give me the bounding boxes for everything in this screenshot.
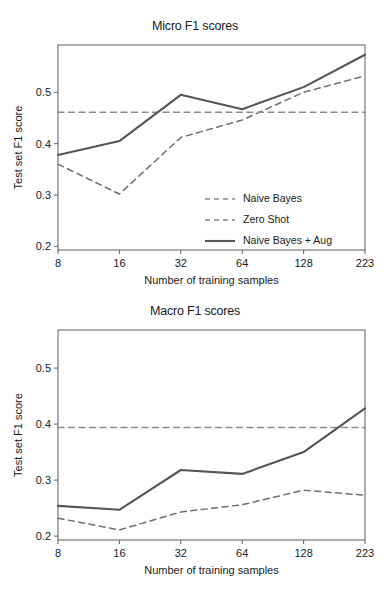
plot-area-macro: 0.20.30.40.58163264128223Number of train…: [0, 290, 390, 598]
x-tick-label: 16: [113, 547, 125, 559]
legend-label: Naive Bayes: [243, 192, 302, 204]
x-tick-label: 8: [55, 257, 61, 269]
x-tick-label: 128: [294, 547, 312, 559]
y-tick-label: 0.4: [36, 418, 51, 430]
x-tick-label: 8: [55, 547, 61, 559]
legend-label: Naive Bayes + Aug: [243, 234, 332, 246]
x-tick-label: 223: [356, 547, 374, 559]
y-tick-label: 0.4: [36, 138, 51, 150]
x-tick-label: 64: [236, 547, 248, 559]
series-line-naive-bayes: [58, 76, 365, 194]
x-axis-title: Number of training samples: [144, 564, 279, 576]
y-tick-label: 0.5: [36, 86, 51, 98]
y-tick-label: 0.3: [36, 189, 51, 201]
x-tick-label: 223: [356, 257, 374, 269]
y-axis-title: Test set F1 score: [12, 393, 24, 477]
series-line-naive-bayes: [58, 490, 365, 530]
y-tick-label: 0.2: [36, 530, 51, 542]
y-tick-label: 0.2: [36, 240, 51, 252]
legend-label: Zero Shot: [243, 213, 289, 225]
y-axis-title: Test set F1 score: [12, 106, 24, 190]
x-tick-label: 32: [175, 547, 187, 559]
series-line-naive-bayes-aug: [58, 55, 365, 155]
chart-panel-micro: Micro F1 scores 0.20.30.40.5816326412822…: [0, 0, 390, 298]
x-axis-title: Number of training samples: [144, 274, 279, 286]
x-tick-label: 64: [236, 257, 248, 269]
x-tick-label: 32: [175, 257, 187, 269]
x-tick-label: 16: [113, 257, 125, 269]
y-tick-label: 0.3: [36, 474, 51, 486]
x-tick-label: 128: [294, 257, 312, 269]
series-line-naive-bayes-aug: [58, 408, 365, 509]
y-tick-label: 0.5: [36, 362, 51, 374]
chart-panel-macro: Macro F1 scores 0.20.30.40.5816326412822…: [0, 290, 390, 598]
plot-area-micro: 0.20.30.40.58163264128223Number of train…: [0, 0, 390, 298]
figure-two-panel-line-charts: Micro F1 scores 0.20.30.40.5816326412822…: [0, 0, 390, 598]
